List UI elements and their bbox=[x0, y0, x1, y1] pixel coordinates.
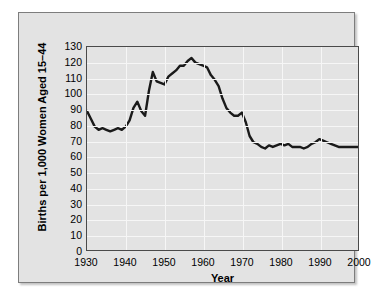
chart-figure: Births per 1,000 Women Aged 15–44 130120… bbox=[0, 0, 373, 293]
y-axis-tick: 90 bbox=[48, 104, 82, 114]
y-axis-tick: 50 bbox=[48, 167, 82, 177]
gridline-horizontal bbox=[87, 220, 358, 221]
gridline-horizontal bbox=[87, 157, 358, 158]
gridline-horizontal bbox=[87, 205, 358, 206]
y-axis-tick: 30 bbox=[48, 199, 82, 209]
x-axis-tick: 1930 bbox=[64, 256, 108, 268]
plot-area bbox=[86, 46, 359, 251]
gridline-horizontal bbox=[87, 142, 358, 143]
chart-panel: Births per 1,000 Women Aged 15–44 130120… bbox=[18, 12, 355, 283]
y-axis-tick: 40 bbox=[48, 183, 82, 193]
gridline-vertical bbox=[243, 47, 244, 250]
y-axis-tick: 60 bbox=[48, 151, 82, 161]
y-axis-tick: 100 bbox=[48, 88, 82, 98]
x-axis-tick: 1940 bbox=[103, 256, 147, 268]
gridline-horizontal bbox=[87, 94, 358, 95]
plot-inner bbox=[87, 47, 358, 250]
y-axis-tick: 20 bbox=[48, 214, 82, 224]
x-axis-label: Year bbox=[86, 272, 359, 284]
x-axis-tick-labels: 19301940195019601970198019902000 bbox=[86, 256, 359, 270]
gridline-vertical bbox=[126, 47, 127, 250]
gridline-horizontal bbox=[87, 126, 358, 127]
y-axis-tick-labels: 1301201101009080706050403020100 bbox=[46, 46, 82, 251]
x-axis-tick: 1990 bbox=[298, 256, 342, 268]
x-axis-tick: 1980 bbox=[259, 256, 303, 268]
x-axis-tick: 2000 bbox=[337, 256, 373, 268]
y-axis-tick: 80 bbox=[48, 120, 82, 130]
x-axis-tick: 1950 bbox=[142, 256, 186, 268]
gridline-vertical bbox=[282, 47, 283, 250]
y-axis-tick: 130 bbox=[48, 41, 82, 51]
gridline-horizontal bbox=[87, 110, 358, 111]
gridline-horizontal bbox=[87, 236, 358, 237]
gridline-vertical bbox=[204, 47, 205, 250]
gridline-vertical bbox=[321, 47, 322, 250]
y-axis-tick: 70 bbox=[48, 136, 82, 146]
gridline-horizontal bbox=[87, 79, 358, 80]
y-axis-tick: 110 bbox=[48, 73, 82, 83]
gridline-horizontal bbox=[87, 63, 358, 64]
y-axis-tick: 0 bbox=[48, 246, 82, 256]
gridline-vertical bbox=[165, 47, 166, 250]
gridline-horizontal bbox=[87, 173, 358, 174]
x-axis-tick: 1970 bbox=[220, 256, 264, 268]
y-axis-tick: 120 bbox=[48, 57, 82, 67]
gridline-horizontal bbox=[87, 189, 358, 190]
x-axis-tick: 1960 bbox=[181, 256, 225, 268]
y-axis-tick: 10 bbox=[48, 230, 82, 240]
data-line bbox=[87, 58, 358, 149]
